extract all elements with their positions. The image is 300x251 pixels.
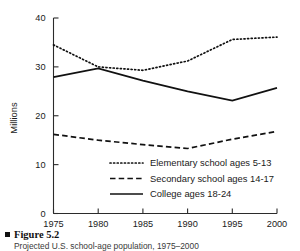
legend-label-0: Elementary school ages 5-13: [150, 157, 271, 168]
figure-caption: Figure 5.2 Projected U.S. school-age pop…: [5, 229, 300, 251]
series-group: [54, 37, 278, 148]
x-axis-ticks: [54, 209, 278, 214]
y-tick-label: 10: [35, 160, 45, 170]
chart-canvas: 010203040 197519801985199019952000 Milli…: [0, 0, 300, 229]
x-tick-label: 1980: [88, 219, 108, 229]
x-tick-label: 1995: [222, 219, 242, 229]
y-axis-tick-labels: 010203040: [35, 13, 45, 219]
series-line-2: [54, 68, 278, 100]
square-bullet-icon: [5, 232, 10, 237]
series-line-1: [54, 131, 278, 148]
line-chart: 010203040 197519801985199019952000 Milli…: [0, 0, 300, 229]
series-line-0: [54, 37, 278, 70]
figure-description: Projected U.S. school-age population, 19…: [14, 241, 300, 251]
chart-legend: Elementary school ages 5-13Secondary sch…: [110, 157, 274, 199]
y-axis-title: Millions: [8, 102, 19, 134]
caption-title-row: Figure 5.2: [5, 229, 300, 240]
x-tick-label: 2000: [267, 219, 287, 229]
x-axis-tick-labels: 197519801985199019952000: [43, 219, 287, 229]
y-tick-label: 30: [35, 62, 45, 72]
y-tick-label: 40: [35, 13, 45, 23]
legend-label-2: College ages 18-24: [150, 188, 231, 199]
figure-number-label: Figure 5.2: [14, 229, 59, 240]
x-tick-label: 1975: [43, 219, 63, 229]
y-tick-label: 0: [40, 209, 45, 219]
x-tick-label: 1985: [133, 219, 153, 229]
x-tick-label: 1990: [177, 219, 197, 229]
figure-container: 010203040 197519801985199019952000 Milli…: [0, 0, 300, 251]
legend-label-1: Secondary school ages 14-17: [150, 173, 274, 184]
y-tick-label: 20: [35, 111, 45, 121]
